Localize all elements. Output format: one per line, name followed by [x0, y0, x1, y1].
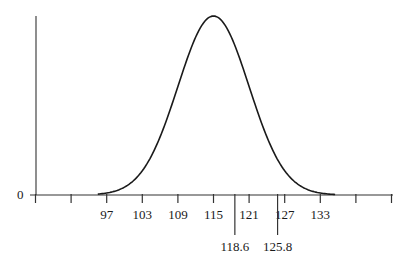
marker-label: 118.6: [220, 239, 249, 254]
x-tick-label: 103: [133, 207, 153, 222]
x-tick-labels: 97103109115121127133: [100, 207, 330, 222]
x-tick-label: 97: [100, 207, 114, 222]
y-zero-label: 0: [17, 187, 24, 202]
value-markers: 118.6125.8: [220, 194, 292, 254]
marker-label: 125.8: [263, 239, 292, 254]
x-tick-label: 115: [204, 207, 223, 222]
x-tick-label: 133: [311, 207, 331, 222]
normal-curve: [98, 16, 335, 194]
normal-distribution-chart: 0 97103109115121127133 118.6125.8: [0, 0, 404, 258]
x-tick-label: 109: [168, 207, 188, 222]
x-tick-label: 121: [239, 207, 259, 222]
